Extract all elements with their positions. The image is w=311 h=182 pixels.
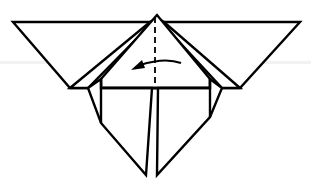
lower-left-panel: [88, 79, 152, 175]
origami-diagram: [0, 0, 311, 182]
lower-right-panel: [157, 79, 222, 175]
